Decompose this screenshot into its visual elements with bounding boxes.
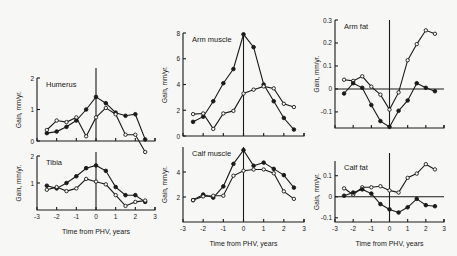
filled-marker xyxy=(242,32,246,36)
open-marker xyxy=(232,174,235,177)
open-marker xyxy=(252,88,255,91)
y-tick-label: 0 xyxy=(176,133,180,140)
open-marker xyxy=(397,91,400,94)
open-marker xyxy=(65,189,68,192)
open-marker xyxy=(222,194,225,197)
open-marker xyxy=(114,113,117,116)
open-marker xyxy=(292,105,295,108)
open-marker xyxy=(212,127,215,130)
filled-marker xyxy=(94,95,98,99)
y-axis-label: Gain, mm/yr. xyxy=(161,166,169,203)
open-marker xyxy=(75,116,78,119)
filled-marker xyxy=(292,128,296,132)
panel-arm-fat: -0.100.10.20.3Arm fatGain, mm/yr. xyxy=(313,17,444,129)
growth-velocity-figure: 012HumerusGain, mm/yr. 12-3-2-10123Tibia… xyxy=(0,0,457,256)
open-marker xyxy=(242,92,245,95)
filled-marker xyxy=(272,167,276,171)
open-marker xyxy=(143,150,146,153)
panel-humerus: 012HumerusGain, mm/yr. xyxy=(15,68,155,154)
filled-marker xyxy=(242,148,246,152)
y-tick-label: 4 xyxy=(176,81,180,88)
y-axis-label: Gain, mm/yr. xyxy=(15,91,23,128)
filled-marker xyxy=(84,108,88,112)
filled-marker xyxy=(379,202,383,206)
x-tick-label: 1 xyxy=(114,213,118,220)
open-marker xyxy=(55,185,58,188)
open-marker xyxy=(124,204,127,207)
x-axis-label: Time from PHV, years xyxy=(210,240,278,248)
filled-marker xyxy=(94,164,98,168)
filled-marker xyxy=(397,109,401,113)
open-marker xyxy=(415,42,418,45)
x-tick-label: -2 xyxy=(350,225,356,232)
open-marker xyxy=(424,162,427,165)
open-marker xyxy=(262,168,265,171)
open-marker xyxy=(361,75,364,78)
x-tick-label: 1 xyxy=(262,225,266,232)
filled-marker xyxy=(65,181,69,185)
open-marker xyxy=(370,85,373,88)
filled-marker xyxy=(272,99,276,103)
open-marker xyxy=(342,78,345,81)
y-tick-label: 0 xyxy=(328,85,332,92)
y-axis-label: Gain, mm/yr. xyxy=(15,164,23,201)
open-marker xyxy=(222,112,225,115)
filled-marker xyxy=(222,185,226,189)
open-marker xyxy=(55,119,58,122)
y-tick-label: 0.1 xyxy=(323,62,332,69)
filled-marker xyxy=(415,81,419,85)
filled-marker xyxy=(134,112,138,116)
panel-tibia: 12-3-2-10123TibiaGain, mm/yr.Time from P… xyxy=(15,152,157,236)
x-tick-label: -1 xyxy=(368,225,374,232)
open-marker xyxy=(143,199,146,202)
open-marker xyxy=(282,190,285,193)
y-tick-label: -0.1 xyxy=(321,108,333,115)
x-tick-label: 3 xyxy=(153,213,157,220)
y-tick-label: 8 xyxy=(176,30,180,37)
panel-title: Arm muscle xyxy=(192,35,232,44)
y-tick-label: 1 xyxy=(30,106,34,113)
filled-marker xyxy=(360,188,364,192)
open-marker xyxy=(415,172,418,175)
open-marker xyxy=(75,187,78,190)
panel-title: Arm fat xyxy=(344,22,369,31)
open-marker xyxy=(379,185,382,188)
filled-marker xyxy=(406,205,410,209)
filled-marker xyxy=(397,211,401,215)
y-tick-label: 0 xyxy=(328,193,332,200)
open-marker xyxy=(282,102,285,105)
x-tick-label: 3 xyxy=(302,225,306,232)
open-marker xyxy=(191,198,194,201)
y-tick-label: 0.2 xyxy=(323,39,332,46)
open-marker xyxy=(134,133,137,136)
open-marker xyxy=(212,194,215,197)
open-marker xyxy=(342,187,345,190)
filled-marker xyxy=(55,130,59,134)
open-marker xyxy=(379,93,382,96)
x-tick-label: 3 xyxy=(442,225,446,232)
filled-marker xyxy=(415,197,419,201)
open-marker xyxy=(134,200,137,203)
panel-calf-muscle: 24-3-2-10123Calf muscleGain, mm/yr.Time … xyxy=(161,147,306,248)
x-axis-label: Time from PHV, years xyxy=(62,228,130,236)
y-tick-label: 2 xyxy=(30,153,34,160)
open-marker xyxy=(388,108,391,111)
open-marker xyxy=(406,59,409,62)
y-tick-label: 0 xyxy=(30,138,34,145)
panel-title: Calf muscle xyxy=(192,149,231,158)
filled-marker xyxy=(222,81,226,85)
filled-marker xyxy=(379,119,383,123)
open-marker xyxy=(272,87,275,90)
open-marker xyxy=(104,183,107,186)
x-tick-label: -3 xyxy=(332,225,338,232)
open-marker xyxy=(292,197,295,200)
filled-marker xyxy=(360,86,364,90)
panel-title: Humerus xyxy=(46,80,77,89)
panel-title: Tibia xyxy=(46,158,63,167)
filled-marker xyxy=(370,103,374,107)
x-tick-label: -3 xyxy=(34,213,40,220)
open-marker xyxy=(201,112,204,115)
y-tick-label: 4 xyxy=(176,169,180,176)
open-marker xyxy=(424,29,427,32)
filled-marker xyxy=(232,67,236,71)
